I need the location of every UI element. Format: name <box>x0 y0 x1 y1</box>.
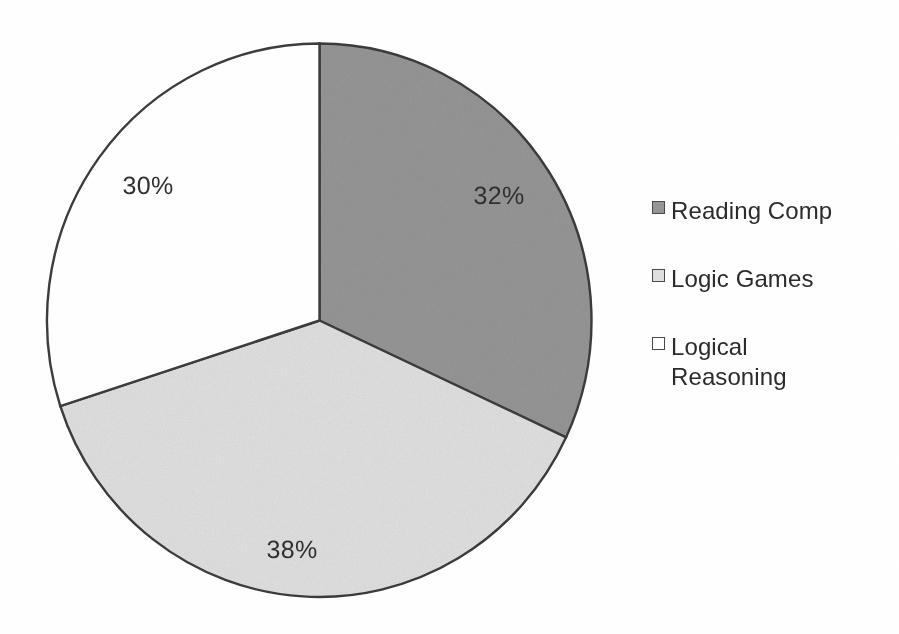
pie-label-reading-comp: 32% <box>473 182 524 211</box>
pie-label-logical-reasoning: 30% <box>122 172 173 201</box>
legend-swatch-logical-reasoning-icon <box>652 337 665 350</box>
legend-label-line: Logic Games <box>671 264 814 294</box>
legend-label-line-2: Reasoning <box>671 362 787 392</box>
pie-label-logic-games: 38% <box>266 536 317 565</box>
legend-label-logic-games: Logic Games <box>671 264 814 294</box>
legend-item-logical-reasoning[interactable]: Logical Reasoning <box>652 332 892 392</box>
pie-chart-figure: 32% 38% 30% Reading Comp Logic Games Log… <box>0 0 899 634</box>
legend-swatch-reading-comp-icon <box>652 201 665 214</box>
legend-label-line: Reading Comp <box>671 196 832 226</box>
chart-legend: Reading Comp Logic Games Logical Reasoni… <box>652 196 892 430</box>
legend-item-logic-games[interactable]: Logic Games <box>652 264 892 294</box>
legend-label-reading-comp: Reading Comp <box>671 196 832 226</box>
legend-label-logical-reasoning: Logical Reasoning <box>671 332 787 392</box>
legend-item-reading-comp[interactable]: Reading Comp <box>652 196 892 226</box>
legend-label-line: Logical <box>671 332 787 362</box>
legend-swatch-logic-games-icon <box>652 269 665 282</box>
